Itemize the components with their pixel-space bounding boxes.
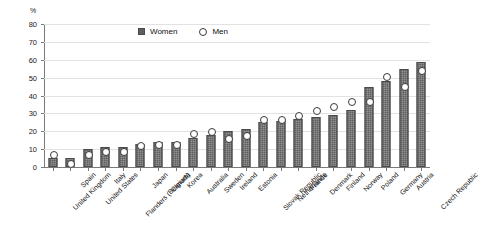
bar-women	[382, 81, 391, 167]
data-point-group	[184, 24, 202, 167]
data-point-group	[202, 24, 220, 167]
x-tick-label: France	[309, 171, 329, 191]
y-axis-unit-label: %	[30, 7, 36, 14]
marker-men	[173, 141, 181, 149]
x-tick-label: Czech Republic	[440, 171, 479, 211]
marker-men	[278, 116, 286, 124]
data-point-group	[237, 24, 255, 167]
y-tick-label-50: 50	[0, 73, 37, 82]
data-series-group	[44, 24, 430, 167]
data-point-group	[395, 24, 413, 167]
marker-men	[243, 132, 251, 140]
data-point-group	[132, 24, 150, 167]
bar-women	[329, 115, 338, 167]
data-point-group	[149, 24, 167, 167]
bar-women	[276, 121, 285, 167]
data-point-group	[114, 24, 132, 167]
bar-women	[189, 138, 198, 167]
marker-men	[155, 141, 163, 149]
marker-men	[313, 107, 321, 115]
marker-men	[102, 148, 110, 156]
bar-women	[311, 117, 320, 167]
marker-men	[225, 135, 233, 143]
data-point-group	[167, 24, 185, 167]
marker-men	[190, 130, 198, 138]
marker-men	[208, 128, 216, 136]
data-point-group	[272, 24, 290, 167]
data-point-group	[360, 24, 378, 167]
data-point-group	[307, 24, 325, 167]
marker-men	[120, 148, 128, 156]
marker-men	[418, 67, 426, 75]
y-tick-label-20: 20	[0, 127, 37, 136]
bar-women	[206, 135, 215, 167]
gridline-0	[44, 167, 430, 168]
x-tick-label: Estonia	[257, 171, 278, 192]
marker-men	[348, 98, 356, 106]
bar-women	[259, 122, 268, 167]
x-axis-tick-labels: United KingdomSpainUnited StatesItalyFla…	[44, 171, 430, 251]
data-point-group	[377, 24, 395, 167]
y-tick-label-70: 70	[0, 37, 37, 46]
marker-men	[383, 73, 391, 81]
marker-men	[137, 142, 145, 150]
marker-men	[85, 151, 93, 159]
y-tick-label-10: 10	[0, 145, 37, 154]
data-point-group	[290, 24, 308, 167]
marker-men	[366, 98, 374, 106]
bar-women	[48, 158, 57, 167]
y-tick-label-30: 30	[0, 109, 37, 118]
data-point-group	[255, 24, 273, 167]
marker-men	[295, 112, 303, 120]
data-point-group	[44, 24, 62, 167]
data-point-group	[412, 24, 430, 167]
plot-area	[44, 24, 430, 167]
y-tick-label-40: 40	[0, 91, 37, 100]
data-point-group	[325, 24, 343, 167]
data-point-group	[97, 24, 115, 167]
marker-men	[260, 116, 268, 124]
data-point-group	[342, 24, 360, 167]
y-tick-label-80: 80	[0, 20, 37, 29]
y-tick-mark-0	[41, 167, 44, 168]
marker-men	[401, 83, 409, 91]
y-tick-label-60: 60	[0, 55, 37, 64]
y-tick-label-0: 0	[0, 163, 37, 172]
data-point-group	[79, 24, 97, 167]
marker-men	[330, 103, 338, 111]
bar-women	[417, 62, 426, 167]
data-point-group	[219, 24, 237, 167]
data-point-group	[62, 24, 80, 167]
marker-men	[50, 151, 58, 159]
bar-women	[347, 110, 356, 167]
marker-men	[67, 160, 75, 168]
bar-women	[294, 119, 303, 167]
x-tick-label: Japan	[150, 171, 168, 189]
